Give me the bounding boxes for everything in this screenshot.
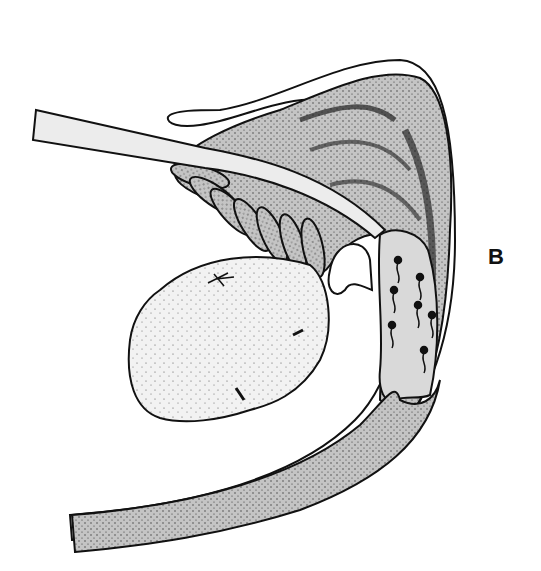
panel-label: B — [488, 244, 504, 270]
ovoid-mass — [129, 257, 329, 421]
anatomical-illustration — [0, 0, 541, 571]
